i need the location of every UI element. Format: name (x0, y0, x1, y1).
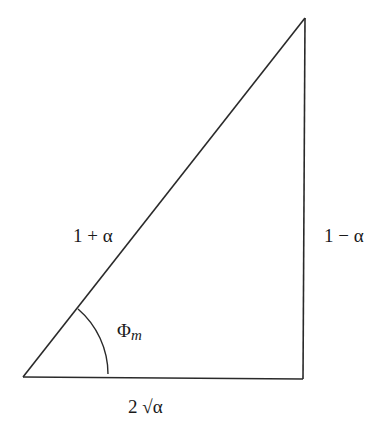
vertical-leg-label: 1 − α (324, 225, 364, 246)
triangle-diagram: 1 + α 1 − α 2 √α Φm (0, 0, 385, 435)
angle-label: Φm (117, 320, 142, 343)
angle-subscript: m (131, 327, 142, 343)
hypotenuse-label: 1 + α (73, 225, 113, 246)
hypotenuse-edge (23, 18, 305, 377)
horizontal-leg-edge (23, 377, 303, 379)
horizontal-leg-label: 2 √α (128, 396, 163, 417)
angle-arc (78, 309, 108, 374)
angle-symbol: Φ (117, 320, 131, 341)
vertical-leg-edge (303, 18, 305, 379)
